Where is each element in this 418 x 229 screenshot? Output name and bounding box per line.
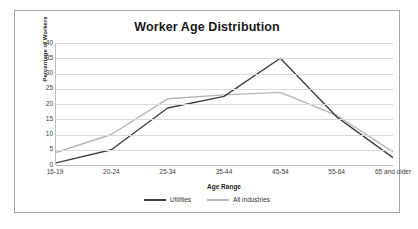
- y-axis-tick-labels: 0510152025303540: [25, 43, 53, 165]
- legend-label: All industries: [233, 197, 270, 204]
- chart-frame: Worker Age Distribution Percentage of Wo…: [14, 10, 400, 213]
- x-axis-tick-label: 35-44: [216, 169, 233, 176]
- x-axis-tick-label: 25-34: [159, 169, 176, 176]
- y-axis-tick-label: 5: [31, 146, 53, 153]
- x-axis-tick-labels: 16-1920-2425-3435-4445-5455-6465 and old…: [55, 169, 393, 181]
- x-axis-tick-label: 55-64: [328, 169, 345, 176]
- plot-area: [55, 43, 393, 165]
- x-axis-tick-label: 65 and older: [375, 169, 411, 176]
- legend-item-utilities[interactable]: Utilities: [144, 197, 191, 204]
- y-axis-tick-label: 15: [31, 116, 53, 123]
- x-axis-title: Age Range: [55, 183, 393, 190]
- y-axis-tick-label: 40: [31, 40, 53, 47]
- y-axis-tick-label: 25: [31, 85, 53, 92]
- y-axis-tick-label: 35: [31, 55, 53, 62]
- legend-item-all-industries[interactable]: All industries: [207, 197, 270, 204]
- x-axis-tick-label: 16-19: [47, 169, 64, 176]
- x-axis-tick-label: 45-54: [272, 169, 289, 176]
- gridline: [56, 135, 393, 136]
- legend-swatch: [207, 199, 229, 201]
- legend-label: Utilities: [170, 197, 191, 204]
- gridline: [56, 89, 393, 90]
- gridline: [56, 119, 393, 120]
- plot-area-wrapper: [55, 43, 393, 165]
- gridline: [56, 150, 393, 151]
- legend-swatch: [144, 199, 166, 201]
- y-axis-tick-label: 20: [31, 101, 53, 108]
- y-axis-tick-label: 30: [31, 70, 53, 77]
- y-axis-tick-label: 10: [31, 131, 53, 138]
- gridline: [56, 58, 393, 59]
- gridline: [56, 104, 393, 105]
- gridline: [56, 165, 393, 166]
- x-axis-tick-label: 20-24: [103, 169, 120, 176]
- gridline: [56, 43, 393, 44]
- chart-legend: UtilitiesAll industries: [15, 197, 399, 204]
- gridline: [56, 74, 393, 75]
- chart-title: Worker Age Distribution: [15, 20, 399, 34]
